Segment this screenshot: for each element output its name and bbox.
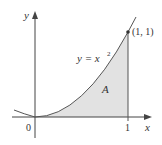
y-axis-label: y bbox=[23, 9, 29, 21]
x-tick-label: 1 bbox=[125, 122, 130, 133]
y-axis-arrow-icon bbox=[32, 11, 38, 19]
point-label: (1, 1) bbox=[132, 26, 154, 38]
curve-label: y = x bbox=[76, 52, 100, 64]
x-axis-label: x bbox=[144, 121, 150, 133]
curve-exponent: 2 bbox=[107, 50, 111, 58]
shaded-area-A bbox=[35, 32, 128, 117]
parabola-area-diagram: y (1, 1) y = x 2 A 0 1 x bbox=[0, 0, 162, 145]
point-1-1 bbox=[126, 30, 130, 34]
origin-label: 0 bbox=[26, 122, 31, 133]
area-label: A bbox=[101, 83, 109, 95]
x-axis-arrow-icon bbox=[144, 114, 152, 120]
